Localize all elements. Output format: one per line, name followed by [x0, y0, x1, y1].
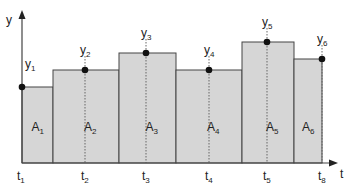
area-label-5-main: A — [266, 120, 274, 134]
sample-point-6 — [319, 56, 326, 63]
y-label-5: y5 — [262, 15, 273, 31]
area-label-4-subscript: 4 — [215, 127, 220, 136]
area-label-3-subscript: 3 — [154, 127, 159, 136]
area-label-6-subscript: 6 — [310, 127, 315, 136]
t-label-5-subscript: 5 — [266, 176, 271, 185]
sample-point-2 — [82, 67, 89, 74]
y-axis-arrow-icon — [19, 10, 26, 19]
sample-point-3 — [143, 50, 150, 57]
t-label-4: t4 — [205, 169, 213, 185]
area-bars — [22, 42, 322, 163]
t-label-1-subscript: 1 — [20, 176, 25, 185]
t-label-5: t5 — [263, 169, 271, 185]
area-label-4-main: A — [207, 120, 215, 134]
sample-point-1 — [19, 84, 26, 91]
area-label-3-main: A — [146, 120, 154, 134]
y-label-3-subscript: 3 — [147, 33, 152, 42]
area-bar-2 — [53, 70, 119, 163]
area-bar-6 — [294, 59, 322, 163]
t-axis-arrow-icon — [329, 160, 338, 167]
area-label-5-subscript: 5 — [274, 127, 279, 136]
y-label-1: y1 — [25, 57, 36, 73]
step-area-diagram: y t y1t1y2t2y3t3y4t4y5t5y6t8A1A2A3A4A5A6 — [0, 0, 356, 188]
y-label-3: y3 — [141, 26, 152, 42]
sample-point-4 — [206, 67, 213, 74]
t-label-6-subscript: 8 — [321, 176, 326, 185]
area-bar-3 — [119, 53, 176, 163]
t-label-6: t8 — [318, 169, 326, 185]
y-label-6-subscript: 6 — [323, 39, 328, 48]
t-label-2-subscript: 2 — [84, 176, 89, 185]
sample-point-5 — [264, 39, 271, 46]
y-label-5-subscript: 5 — [268, 22, 273, 31]
t-label-3: t3 — [142, 169, 150, 185]
t-label-3-subscript: 3 — [145, 176, 150, 185]
t-label-4-subscript: 4 — [208, 176, 213, 185]
diagram-canvas: y t y1t1y2t2y3t3y4t4y5t5y6t8A1A2A3A4A5A6 — [0, 0, 356, 188]
t-label-1: t1 — [17, 169, 25, 185]
area-label-2-subscript: 2 — [92, 127, 97, 136]
y-label-2-subscript: 2 — [86, 50, 91, 59]
area-label-2-main: A — [84, 120, 92, 134]
area-label-1-subscript: 1 — [40, 127, 45, 136]
area-label-1-main: A — [32, 120, 40, 134]
area-label-6-main: A — [302, 120, 310, 134]
y-label-4: y4 — [204, 43, 215, 59]
t-axis-label: t — [340, 167, 344, 181]
y-label-6: y6 — [317, 32, 328, 48]
y-label-2: y2 — [80, 43, 91, 59]
y-label-4-subscript: 4 — [210, 50, 215, 59]
y-axis-label: y — [6, 13, 12, 27]
y-label-1-subscript: 1 — [31, 64, 36, 73]
t-label-2: t2 — [81, 169, 89, 185]
area-bar-5 — [242, 42, 294, 163]
